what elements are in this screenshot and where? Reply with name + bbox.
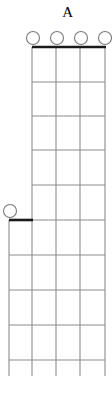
- lower-fretboard-strings: [9, 220, 105, 376]
- chord-grid-canvas: [0, 0, 112, 394]
- open-string-marker: [4, 205, 17, 218]
- open-string-marker: [27, 32, 40, 45]
- upper-fretboard-strings: [32, 47, 105, 220]
- upper-fretboard-frets: [32, 82, 105, 185]
- open-string-marker: [75, 32, 88, 45]
- open-string-marker: [99, 32, 112, 45]
- chord-diagram: A: [0, 0, 112, 394]
- lower-fretboard-frets: [9, 220, 105, 360]
- open-string-circles: [4, 32, 112, 218]
- open-string-marker: [51, 32, 64, 45]
